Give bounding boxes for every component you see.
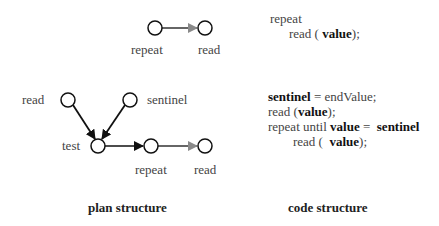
code-structure-caption: code structure	[288, 200, 368, 216]
label-test: test	[62, 138, 80, 154]
top-label-repeat: repeat	[131, 42, 163, 58]
code-line: read (value);	[268, 104, 336, 119]
code-line: sentinel = endValue;	[268, 89, 376, 104]
code-line: repeat	[270, 11, 302, 26]
top-node-read	[198, 21, 212, 35]
top-label-read: read	[198, 42, 220, 58]
edge-sentinel-test	[102, 105, 125, 139]
node-read	[61, 93, 75, 107]
plan-structure-caption: plan structure	[88, 200, 167, 216]
label-read2: read	[194, 162, 216, 178]
node-read2	[198, 139, 212, 153]
code-line: read ( value);	[270, 26, 360, 41]
edge-read-test	[73, 105, 95, 139]
node-test	[91, 139, 105, 153]
label-read: read	[22, 92, 44, 108]
top-node-repeat	[148, 21, 162, 35]
node-repeat	[144, 139, 158, 153]
top-code-block: repeat read ( value);	[270, 11, 360, 41]
code-line: read ( value);	[268, 134, 367, 149]
code-line: repeat until value = sentinel	[268, 119, 419, 134]
label-repeat: repeat	[135, 162, 167, 178]
bottom-code-block: sentinel = endValue; read (value); repea…	[268, 89, 419, 149]
label-sentinel: sentinel	[147, 92, 187, 108]
node-sentinel	[123, 93, 137, 107]
